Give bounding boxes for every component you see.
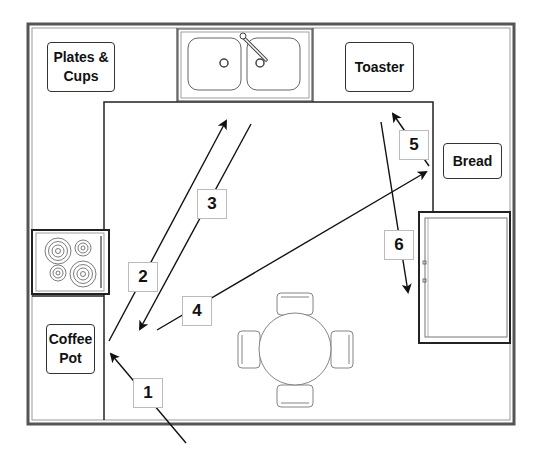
stove (32, 230, 109, 294)
sink (178, 29, 312, 101)
step-6-number: 6 (394, 235, 403, 255)
toaster-text: Toaster (355, 58, 405, 77)
step-3-box: 3 (197, 189, 227, 219)
step-5-box: 5 (399, 130, 429, 160)
step-2-number: 2 (138, 267, 147, 287)
coffee-pot-text-1: Coffee (49, 330, 93, 349)
coffee-pot-text-2: Pot (59, 349, 82, 368)
plates-cups-text: Plates & Cups (53, 48, 109, 86)
step-4-box: 4 (182, 296, 212, 326)
step-1-box: 1 (133, 378, 163, 408)
dining-table (238, 293, 353, 407)
step-2-box: 2 (128, 262, 158, 292)
step-4-number: 4 (192, 301, 201, 321)
toaster-label: Toaster (345, 42, 414, 92)
bread-text: Bread (453, 152, 493, 171)
plates-cups-label: Plates & Cups (47, 42, 115, 92)
refrigerator (419, 212, 510, 343)
step-6-box: 6 (384, 230, 414, 260)
step-5-number: 5 (409, 135, 418, 155)
coffee-pot-label: Coffee Pot (46, 324, 95, 374)
step-1-number: 1 (143, 383, 152, 403)
step-3-number: 3 (207, 194, 216, 214)
bread-label: Bread (443, 143, 502, 179)
